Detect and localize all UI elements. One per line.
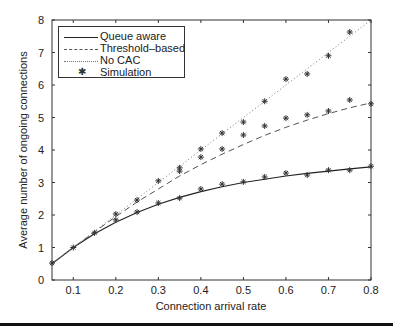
y-tick-label: 5	[38, 112, 44, 124]
x-tick-label: 0.5	[236, 284, 251, 296]
legend-label: Simulation	[100, 66, 151, 79]
simulation-point	[325, 167, 331, 173]
x-axis-label: Connection arrival rate	[156, 300, 267, 312]
x-tick-label: 0.2	[108, 284, 123, 296]
simulation-point	[177, 195, 183, 201]
simulation-point	[347, 167, 353, 173]
dotted-line-icon	[64, 61, 98, 62]
simulation-point	[219, 146, 225, 152]
simulation-point	[304, 112, 310, 118]
y-tick-label: 1	[38, 242, 44, 254]
simulation-point	[283, 170, 289, 176]
simulation-point	[92, 230, 98, 236]
x-tick-label: 0.7	[321, 284, 336, 296]
simulation-point	[70, 245, 76, 251]
x-tick-label: 0.8	[363, 284, 378, 296]
y-tick-label: 7	[38, 47, 44, 59]
y-tick-label: 4	[38, 144, 44, 156]
x-tick-label: 0.6	[278, 284, 293, 296]
y-axis-label: Average number of ongoing connections	[17, 51, 29, 248]
simulation-point	[113, 211, 119, 217]
legend: Queue aware Threshold–based No CAC ✱ Sim…	[58, 26, 185, 78]
y-tick-label: 6	[38, 79, 44, 91]
simulation-point	[240, 132, 246, 138]
y-tick-label: 3	[38, 177, 44, 189]
simulation-point	[262, 98, 268, 104]
simulation-point	[347, 29, 353, 35]
simulation-point	[240, 179, 246, 185]
simulation-point	[198, 154, 204, 160]
simulation-point	[325, 53, 331, 59]
simulation-point	[198, 146, 204, 152]
x-tick-label: 0.4	[193, 284, 208, 296]
simulation-point	[134, 209, 140, 215]
x-tick-label: 0.1	[66, 284, 81, 296]
simulation-point	[219, 181, 225, 187]
simulation-point	[134, 197, 140, 203]
dashed-line-icon	[64, 49, 98, 50]
threshold-based-line	[52, 103, 371, 264]
legend-item-simulation: ✱ Simulation	[59, 67, 184, 79]
simulation-point	[262, 123, 268, 129]
simulation-point	[347, 97, 353, 103]
y-tick-label: 2	[38, 209, 44, 221]
y-tick-label: 0	[38, 274, 44, 286]
simulation-point	[283, 76, 289, 82]
solid-line-icon	[64, 37, 98, 38]
simulation-point	[177, 165, 183, 171]
x-tick-label: 0.3	[151, 284, 166, 296]
simulation-point	[113, 217, 119, 223]
simulation-point	[155, 178, 161, 184]
bottom-divider	[0, 323, 393, 326]
y-tick-label: 8	[38, 14, 44, 26]
simulation-point	[240, 119, 246, 125]
simulation-point	[325, 108, 331, 114]
simulation-point	[283, 115, 289, 121]
simulation-point	[304, 71, 310, 77]
queue-aware-line	[52, 167, 371, 264]
simulation-point	[219, 130, 225, 136]
